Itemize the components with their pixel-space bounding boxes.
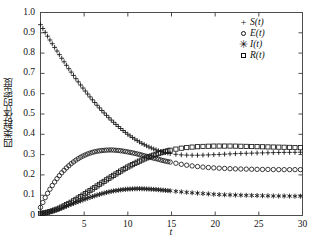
y-tick-label: 0.9 [13,27,35,37]
legend-item: R(t) [237,50,299,61]
y-tick-label: 0 [13,210,35,220]
y-tick-label: 0.8 [13,47,35,57]
y-tick-label: 1.0 [13,7,35,17]
x-tick-label: 20 [205,219,225,229]
y-tick-label: 0.1 [13,189,35,199]
x-tick-label: 5 [74,219,94,229]
square-marker-icon [237,50,250,61]
legend-label: E(t) [250,28,265,39]
x-tick-label: 25 [249,219,269,229]
legend-item: ✳I(t) [237,39,299,50]
x-axis-label: t [161,226,181,237]
y-tick-label: 0.6 [13,88,35,98]
legend-item: +S(t) [237,17,299,28]
x-tick-label: 10 [118,219,138,229]
y-tick-label: 0.4 [13,128,35,138]
y-tick-label: 0.7 [13,67,35,77]
chart-legend: +S(t)E(t)✳I(t)R(t) [237,17,299,61]
y-tick-label: 0.5 [13,108,35,118]
y-tick-label: 0.3 [13,149,35,159]
legend-label: S(t) [250,17,264,28]
chart-figure: 四类群体的密度 00.10.20.30.40.50.60.70.80.91.0 … [0,0,315,243]
legend-label: R(t) [250,50,265,61]
star-marker-icon: ✳ [237,39,250,50]
y-tick-label: 0.2 [13,169,35,179]
plus-marker-icon: + [237,17,250,28]
x-tick-label: 30 [293,219,313,229]
legend-label: I(t) [250,39,262,50]
